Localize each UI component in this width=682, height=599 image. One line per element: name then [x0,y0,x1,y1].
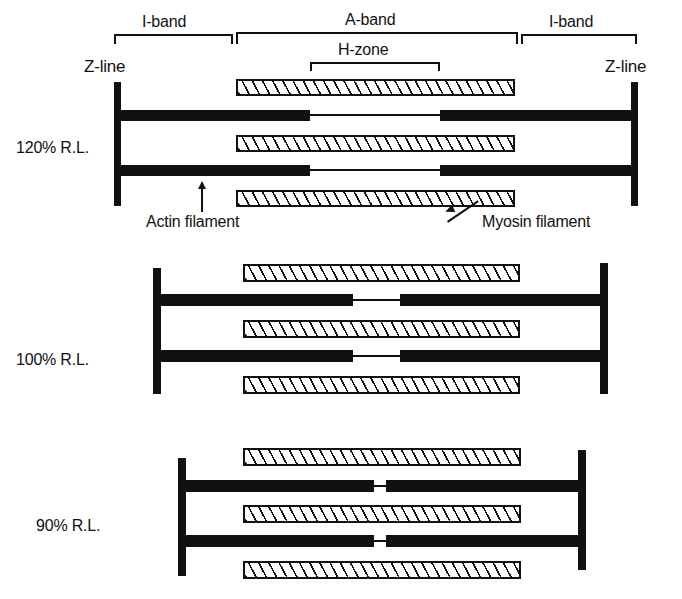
actin-filament-120-1-left [114,110,310,121]
bracket-h-zone [310,62,440,71]
actin-callout-arrowhead-icon [198,181,206,189]
actin-filament-100-1-left [153,294,353,306]
myosin-filament-120-1 [236,79,515,96]
actin-bridge-100-1 [353,299,400,301]
myosin-filament-100-3 [243,376,520,394]
label-z-line-left: Z-line [84,58,125,75]
actin-callout-line [201,188,203,212]
label-h-zone: H-zone [338,42,388,58]
actin-bridge-120-1 [310,114,440,116]
actin-filament-90-1-right [386,480,586,492]
z-line-left-100 [153,268,161,394]
myosin-filament-90-3 [243,561,521,579]
actin-filament-100-2-right [400,350,608,362]
z-line-right-90 [578,450,586,570]
z-line-left-120 [114,82,121,206]
actin-bridge-90-2 [374,540,386,542]
actin-filament-120-2-left [114,165,310,176]
label-myosin-filament: Myosin filament [482,214,590,230]
actin-filament-90-2-left [178,535,374,547]
myosin-filament-90-2 [243,505,521,523]
actin-filament-90-1-left [178,480,374,492]
label-z-line-right: Z-line [605,58,646,75]
label-a-band: A-band [345,12,395,28]
label-i-band-right: I-band [549,14,593,30]
myosin-filament-100-1 [243,264,520,282]
label-actin-filament: Actin filament [146,214,239,230]
actin-bridge-120-2 [310,169,440,171]
myosin-filament-120-2 [236,135,515,152]
actin-bridge-90-1 [374,485,386,487]
label-i-band-left: I-band [142,14,186,30]
bracket-i-band-right [521,34,637,44]
myosin-filament-100-2 [243,320,520,338]
z-line-left-90 [178,458,186,576]
panel-label-100: 100% R.L. [16,352,89,368]
z-line-right-120 [631,82,638,206]
actin-filament-100-2-left [153,350,353,362]
actin-filament-120-2-right [440,165,638,176]
sarcomere-diagram: I-band A-band H-zone I-band Z-line Z-lin… [0,0,682,599]
actin-bridge-100-2 [353,355,400,357]
bracket-i-band-left [114,34,233,44]
myosin-filament-90-1 [243,448,521,466]
actin-filament-90-2-right [386,535,586,547]
panel-label-90: 90% R.L. [36,518,100,534]
actin-filament-100-1-right [400,294,608,306]
z-line-right-100 [600,263,608,394]
panel-label-120: 120% R.L. [16,140,89,156]
actin-filament-120-1-right [440,110,638,121]
